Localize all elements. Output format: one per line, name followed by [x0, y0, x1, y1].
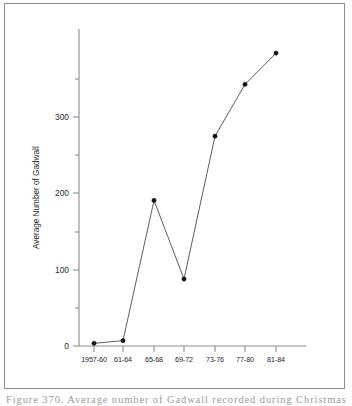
- figure-frame: 0 100 200 300 Average Number of Gadwall: [4, 3, 345, 389]
- data-series-line: [94, 53, 276, 343]
- x-tick-label-4: 73-76: [206, 355, 224, 364]
- figure-page: 0 100 200 300 Average Number of Gadwall: [0, 0, 352, 406]
- data-point: [92, 341, 96, 345]
- y-axis-title: Average Number of Gadwall: [32, 146, 41, 249]
- x-tick-label-6: 81-84: [267, 355, 285, 364]
- x-axis-ticks: [94, 346, 276, 352]
- x-tick-label-1: 61-64: [114, 355, 132, 364]
- data-series-markers: [92, 51, 278, 345]
- figure-caption: Figure 370. Average number of Gadwall re…: [6, 394, 350, 406]
- x-tick-label-3: 69-72: [175, 355, 193, 364]
- gadwall-line-chart: 0 100 200 300 Average Number of Gadwall: [5, 4, 346, 390]
- data-point: [213, 134, 217, 138]
- x-tick-label-2: 65-68: [145, 355, 163, 364]
- data-point: [182, 277, 186, 281]
- y-tick-label-200: 200: [55, 188, 69, 198]
- data-point: [121, 339, 125, 343]
- y-tick-label-0: 0: [64, 341, 69, 351]
- y-tick-label-300: 300: [55, 112, 69, 122]
- y-tick-label-100: 100: [55, 265, 69, 275]
- x-tick-label-0: 1957-60: [81, 355, 107, 364]
- data-point: [274, 51, 278, 55]
- data-point: [243, 82, 247, 86]
- data-point: [152, 198, 156, 202]
- x-tick-label-5: 77-80: [236, 355, 254, 364]
- chart-plot-area: 0 100 200 300 Average Number of Gadwall: [5, 4, 346, 390]
